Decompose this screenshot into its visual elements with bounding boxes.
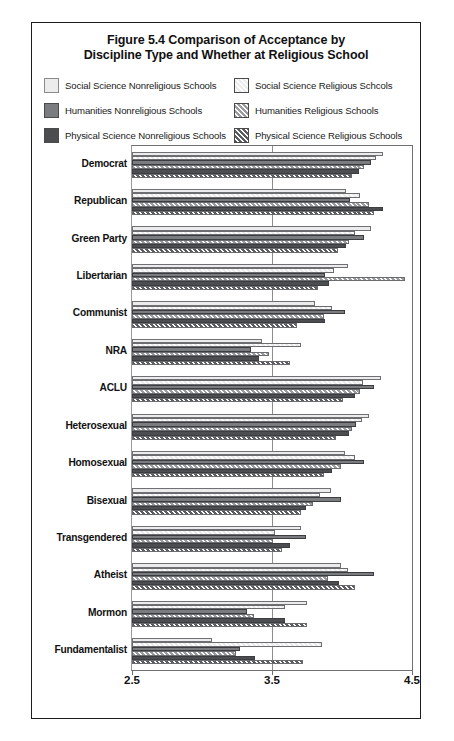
title-line-2: Discipline Type and Whether at Religious… xyxy=(46,48,406,63)
bar xyxy=(132,605,285,609)
legend-item: Social Science Nonreligious Schools xyxy=(38,73,226,98)
category-label: Homosexual xyxy=(31,457,127,468)
legend-swatch-icon xyxy=(234,78,249,93)
legend-label: Social Science Religious Schcols xyxy=(255,80,392,91)
bar xyxy=(132,198,350,202)
chart-legend: Social Science Nonreligious SchoolsSocia… xyxy=(38,73,414,148)
bar xyxy=(132,581,339,585)
bar xyxy=(132,306,332,310)
bar xyxy=(132,543,290,547)
legend-item: Physical Science Religious Schools xyxy=(228,123,414,148)
bar-group: Libertarian xyxy=(132,258,412,295)
bar xyxy=(132,414,369,418)
axis-midline xyxy=(272,146,273,670)
bar xyxy=(132,585,355,589)
category-label: Communist xyxy=(31,307,127,318)
bar xyxy=(132,488,331,492)
bar xyxy=(132,248,338,252)
legend-item: Humanities Religious Schools xyxy=(228,98,414,123)
bar xyxy=(132,273,325,277)
bar-group: Transgendered xyxy=(132,520,412,557)
bar xyxy=(132,207,383,211)
legend-swatch-icon xyxy=(234,103,249,118)
bar xyxy=(132,361,290,365)
bar xyxy=(132,623,307,627)
bar xyxy=(132,660,303,664)
bar-group: Mormon xyxy=(132,595,412,632)
bar xyxy=(132,548,282,552)
legend-item: Physical Science Nonreligious Schools xyxy=(38,123,226,148)
legend-swatch-icon xyxy=(44,103,59,118)
figure-frame: Figure 5.4 Comparison of Acceptance by D… xyxy=(31,22,421,719)
category-label: Democrat xyxy=(31,158,127,169)
bar xyxy=(132,576,328,580)
bar xyxy=(132,493,320,497)
bar xyxy=(132,319,325,323)
bar xyxy=(132,563,341,567)
x-tick-label: 3.5 xyxy=(264,674,280,686)
bar xyxy=(132,235,364,239)
bar xyxy=(132,460,364,464)
bar xyxy=(132,656,255,660)
bar xyxy=(132,568,348,572)
x-tick-mark xyxy=(272,670,273,675)
bar-group: Democrat xyxy=(132,146,412,183)
bar-group: Homosexual xyxy=(132,445,412,482)
legend-label: Social Science Nonreligious Schools xyxy=(65,80,217,91)
bar xyxy=(132,244,346,248)
bar xyxy=(132,339,262,343)
bar-group: ACLU xyxy=(132,371,412,408)
category-label: Green Party xyxy=(31,233,127,244)
legend-label: Physical Science Religious Schools xyxy=(255,130,402,141)
legend-swatch-icon xyxy=(44,128,59,143)
bar xyxy=(132,651,236,655)
bar-group: Republican xyxy=(132,183,412,220)
bar-group: NRA xyxy=(132,333,412,370)
bar xyxy=(132,160,371,164)
bar xyxy=(132,156,376,160)
x-tick-mark xyxy=(412,670,413,675)
bar xyxy=(132,152,383,156)
title-line-1: Figure 5.4 Comparison of Acceptance by xyxy=(46,33,406,48)
bar xyxy=(132,264,348,268)
bar xyxy=(132,451,345,455)
bar xyxy=(132,510,301,514)
bar xyxy=(132,240,349,244)
category-label: Transgendered xyxy=(31,532,127,543)
bar-group: Heterosexual xyxy=(132,408,412,445)
bar xyxy=(132,314,324,318)
bar xyxy=(132,347,251,351)
bar xyxy=(132,323,297,327)
bar xyxy=(132,535,306,539)
category-label: Republican xyxy=(31,195,127,206)
bar xyxy=(132,526,301,530)
bar xyxy=(132,281,329,285)
bar xyxy=(132,609,247,613)
bar xyxy=(132,436,336,440)
bar xyxy=(132,638,212,642)
bar xyxy=(132,394,355,398)
bar xyxy=(132,352,269,356)
bar xyxy=(132,642,322,646)
bar xyxy=(132,647,240,651)
page-title: Figure 5.4 Comparison of Acceptance by D… xyxy=(46,33,406,63)
bar xyxy=(132,398,343,402)
legend-swatch-icon xyxy=(234,128,249,143)
category-label: Libertarian xyxy=(31,270,127,281)
bar-group: Fundamentalist xyxy=(132,633,412,670)
bar xyxy=(132,211,374,215)
bar xyxy=(132,165,364,169)
x-tick-label: 4.5 xyxy=(404,674,420,686)
bar-group: Communist xyxy=(132,296,412,333)
plot-area: DemocratRepublicanGreen PartyLibertarian… xyxy=(131,145,413,671)
legend-swatch-icon xyxy=(44,78,59,93)
bar xyxy=(132,343,301,347)
bar xyxy=(132,193,360,197)
category-label: Atheist xyxy=(31,569,127,580)
legend-item: Humanities Nonreligious Schools xyxy=(38,98,226,123)
legend-label: Humanities Nonreligious Schools xyxy=(65,105,202,116)
bar xyxy=(132,169,359,173)
bar xyxy=(132,455,355,459)
bar xyxy=(132,356,259,360)
bar xyxy=(132,231,355,235)
